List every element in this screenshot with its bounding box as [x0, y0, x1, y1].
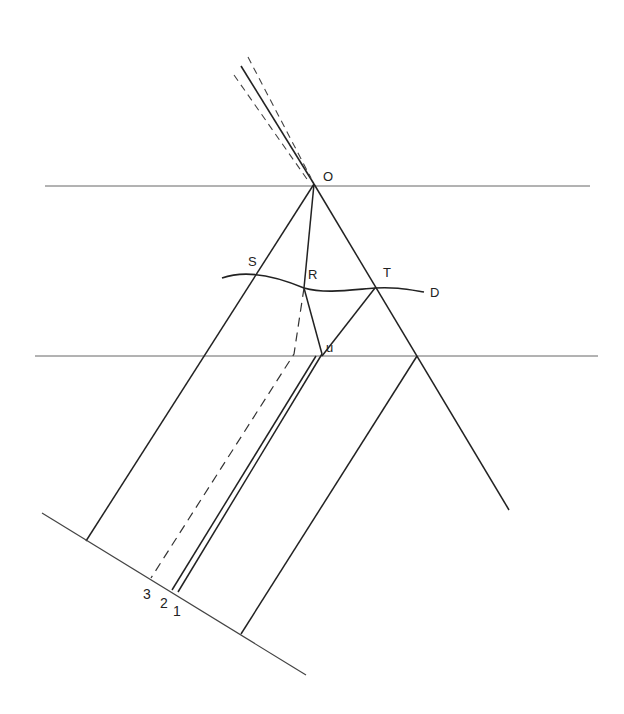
incident-ray-solid	[241, 66, 314, 184]
label-3: 3	[143, 586, 151, 602]
incident-ray-dashed-right	[248, 57, 311, 178]
label-T: T	[383, 265, 391, 280]
label-1: 1	[173, 603, 181, 619]
curve-D	[222, 274, 424, 292]
ray-3-dashed	[151, 288, 304, 578]
ray-2	[172, 356, 316, 590]
ray-O-right	[314, 184, 509, 510]
ray-1	[178, 354, 322, 592]
ray-R-u	[304, 288, 322, 354]
ray-right-refracted	[241, 356, 417, 634]
incident-ray-dashed-left	[234, 75, 309, 182]
refraction-diagram: O S R T D u 3 2 1	[0, 0, 624, 714]
label-R: R	[308, 267, 317, 282]
label-D: D	[430, 285, 439, 300]
ray-O-left	[86, 184, 314, 541]
diagram-canvas: O S R T D u 3 2 1	[0, 0, 624, 714]
label-S: S	[248, 254, 257, 269]
label-u: u	[326, 340, 333, 355]
label-O: O	[323, 169, 333, 184]
label-2: 2	[160, 595, 168, 611]
